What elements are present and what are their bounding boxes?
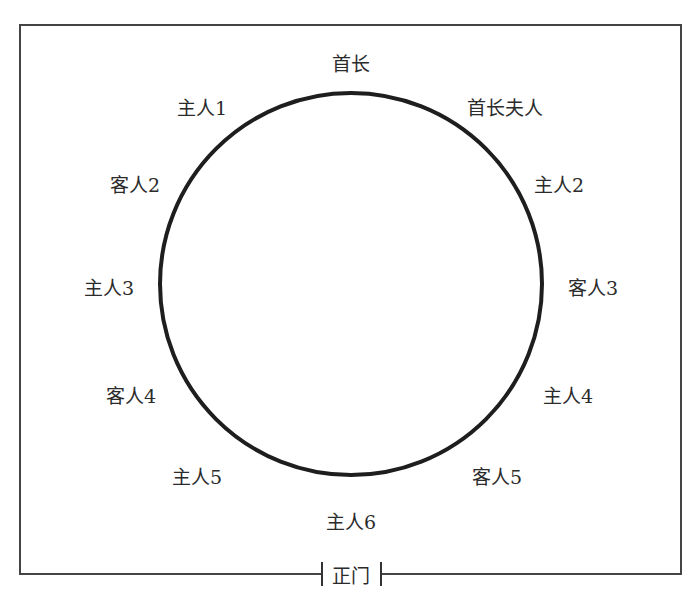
room-wall-bottom-left	[19, 573, 322, 575]
round-table	[158, 91, 544, 477]
seating-diagram: 正门 首长 首长夫人 主人1 主人2 客人2 客人3 主人3 主人4 客人4 客…	[0, 0, 697, 607]
seat-guest-2: 客人2	[110, 176, 160, 195]
door-jamb-left	[321, 562, 323, 586]
room-wall-left	[19, 24, 21, 575]
room-wall-right	[680, 24, 682, 575]
main-door-label: 正门	[332, 567, 370, 586]
seat-host-3: 主人3	[84, 279, 134, 298]
seat-host-2: 主人2	[534, 176, 584, 195]
seat-host-4: 主人4	[543, 387, 593, 406]
seat-host-6: 主人6	[326, 513, 376, 532]
seat-chief: 首长	[332, 55, 370, 74]
seat-host-1: 主人1	[177, 99, 227, 118]
room-wall-bottom-right	[381, 573, 682, 575]
seat-guest-3: 客人3	[568, 279, 618, 298]
door-jamb-right	[380, 562, 382, 586]
seat-chief-spouse: 首长夫人	[467, 99, 543, 118]
seat-guest-5: 客人5	[472, 468, 522, 487]
room-wall-top	[19, 24, 682, 26]
seat-guest-4: 客人4	[106, 387, 156, 406]
seat-host-5: 主人5	[172, 468, 222, 487]
